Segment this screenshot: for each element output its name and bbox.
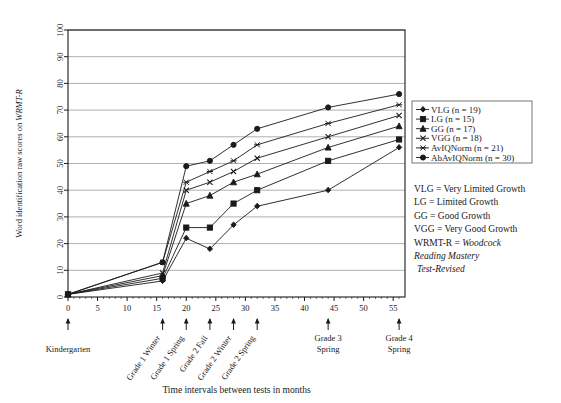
x-axis-title: Time intervals between tests in months [162, 385, 311, 395]
data-point [65, 292, 70, 297]
y-axis: 0102030405060708090100Word identificatio… [14, 24, 68, 300]
series-line [68, 147, 399, 294]
legend-label: VGG (n = 18) [431, 133, 482, 143]
series-AvIQNorm [65, 102, 402, 297]
series-line [68, 105, 399, 295]
data-point [396, 102, 402, 107]
series-VLG [65, 144, 401, 296]
series-line [68, 126, 399, 294]
data-point [255, 126, 260, 131]
abbreviation-line: VGG = Very Good Growth [414, 224, 518, 234]
wrmt-note-line-1: WRMT-R = Woodcock [414, 238, 502, 248]
y-axis-title: Word identification raw scores on WRMT-R [14, 88, 24, 237]
data-point [207, 169, 213, 174]
y-tick-label: 0 [55, 295, 65, 299]
grid-lines [68, 30, 405, 270]
abbreviation-line: GG = Good Growth [414, 211, 491, 221]
data-point [396, 91, 401, 96]
x-tick-label: 55 [389, 303, 398, 313]
y-tick-label: 60 [55, 133, 65, 142]
data-point [207, 192, 213, 198]
data-point [231, 142, 236, 147]
event-arrow-head [397, 318, 402, 324]
series-AbAvIQNorm [65, 91, 401, 296]
data-point [230, 158, 236, 163]
event-arrow-head [184, 318, 189, 324]
series-GG [65, 123, 402, 297]
data-point [396, 113, 401, 118]
event-annotations: KindergartenGrade 1 WinterGrade 1 Spring… [46, 318, 414, 382]
y-tick-label: 30 [55, 213, 65, 222]
abbreviation-block: VLG = Very Limited GrowthLG = Limited Gr… [413, 184, 525, 274]
x-tick-label: 45 [330, 303, 339, 313]
y-tick-label: 90 [55, 52, 65, 61]
data-point [183, 180, 189, 185]
data-point [184, 225, 189, 230]
event-arrow-head [160, 318, 165, 324]
event-arrow-head [66, 318, 71, 324]
event-arrow-head [326, 318, 331, 324]
x-tick-label: 30 [241, 303, 250, 313]
data-point [325, 121, 331, 126]
data-point [255, 188, 260, 193]
data-point [396, 137, 401, 142]
event-label: Grade 4Spring [386, 333, 414, 354]
data-point [207, 158, 212, 163]
legend-label: AvIQNorm (n = 21) [431, 143, 503, 153]
event-label: Grade 3Spring [315, 333, 342, 354]
x-tick-label: 0 [66, 303, 70, 313]
series-line [68, 94, 399, 294]
event-arrow-head [207, 318, 212, 324]
abbreviation-line: LG = Limited Growth [414, 197, 498, 207]
event-arrow-head [231, 318, 236, 324]
data-point [326, 187, 331, 193]
data-point [420, 107, 425, 113]
data-point [420, 117, 425, 122]
x-axis: 0510152025303540455055Time intervals bet… [66, 297, 399, 395]
x-tick-label: 25 [212, 303, 221, 313]
legend-label: VLG (n = 19) [431, 105, 481, 115]
data-point [420, 145, 426, 150]
event-label: Kindergarten [46, 344, 91, 354]
line-chart: 0102030405060708090100Word identificatio… [0, 0, 561, 403]
chart-figure: 0102030405060708090100Word identificatio… [0, 0, 561, 403]
y-tick-label: 40 [55, 186, 65, 195]
y-tick-label: 80 [55, 79, 65, 88]
x-tick-label: 40 [300, 303, 309, 313]
y-tick-label: 70 [55, 106, 65, 115]
legend-label: AbAvIQNorm (n = 30) [431, 153, 514, 163]
data-point [160, 260, 165, 265]
y-tick-label: 50 [55, 159, 65, 168]
y-tick-label: 10 [55, 266, 65, 275]
data-point [207, 225, 212, 230]
y-tick-label: 20 [55, 239, 65, 248]
x-tick-label: 10 [123, 303, 132, 313]
legend-label: LG (n = 15) [431, 114, 474, 124]
data-point [255, 156, 260, 161]
event-arrow-head [255, 318, 260, 324]
wrmt-note-line-3: Test-Revised [417, 264, 465, 274]
data-point [254, 171, 260, 177]
legend-label: GG (n = 17) [431, 124, 475, 134]
data-point [326, 105, 331, 110]
legend: VLG (n = 19)LG (n = 15)GG (n = 17)VGG (n… [412, 101, 532, 163]
series-layer [65, 91, 402, 296]
data-point [254, 142, 260, 147]
data-point [184, 164, 189, 169]
data-point [420, 155, 425, 160]
wrmt-note-line-2: Reading Mastery [413, 251, 480, 261]
data-point [396, 144, 401, 150]
data-point [207, 180, 212, 185]
x-tick-label: 20 [182, 303, 191, 313]
x-tick-label: 15 [152, 303, 161, 313]
data-point [231, 169, 236, 174]
data-point [184, 235, 189, 241]
data-point [326, 158, 331, 163]
y-tick-label: 100 [55, 24, 65, 37]
abbreviation-line: VLG = Very Limited Growth [414, 184, 525, 194]
data-point [231, 201, 236, 206]
x-tick-label: 35 [271, 303, 280, 313]
data-point [396, 123, 402, 129]
x-tick-label: 5 [95, 303, 99, 313]
x-tick-label: 50 [359, 303, 368, 313]
